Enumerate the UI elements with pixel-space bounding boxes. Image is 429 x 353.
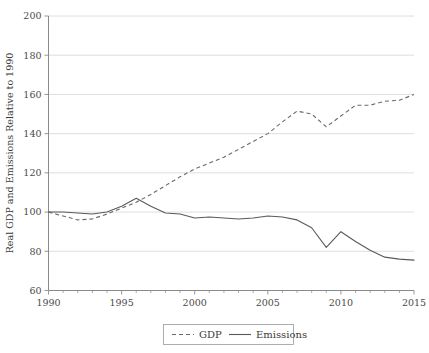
x-tick-label-1990: 1990 — [36, 297, 60, 308]
x-tick-label-2015: 2015 — [402, 297, 426, 308]
y-axis-title-text: Real GDP and Emissions Relative to 1990 — [4, 53, 15, 254]
x-axis: 199019952000200520102015 — [36, 291, 426, 308]
data-series — [49, 94, 415, 260]
y-tick-label-140: 140 — [23, 128, 41, 139]
line-chart: 6080100120140160180200 19901995200020052… — [0, 0, 429, 353]
y-tick-label-80: 80 — [29, 246, 41, 257]
y-tick-label-100: 100 — [23, 206, 41, 217]
x-tick-label-2000: 2000 — [183, 297, 207, 308]
y-tick-label-60: 60 — [29, 285, 41, 296]
y-tick-label-160: 160 — [23, 89, 41, 100]
y-axis-title: Real GDP and Emissions Relative to 1990 — [4, 53, 15, 254]
legend: GDP Emissions — [164, 325, 308, 345]
y-axis: 6080100120140160180200 — [23, 10, 48, 296]
x-tick-label-2010: 2010 — [329, 297, 353, 308]
series-line-emissions — [49, 198, 415, 260]
y-tick-label-200: 200 — [23, 10, 41, 21]
x-tick-label-1995: 1995 — [110, 297, 134, 308]
x-tick-label-2005: 2005 — [256, 297, 280, 308]
y-tick-label-180: 180 — [23, 50, 41, 61]
legend-label-gdp: GDP — [199, 329, 222, 340]
gridlines — [49, 16, 415, 251]
chart-container: 6080100120140160180200 19901995200020052… — [0, 0, 429, 353]
series-line-gdp — [49, 94, 415, 219]
y-tick-label-120: 120 — [23, 167, 41, 178]
legend-label-emissions: Emissions — [256, 329, 307, 340]
